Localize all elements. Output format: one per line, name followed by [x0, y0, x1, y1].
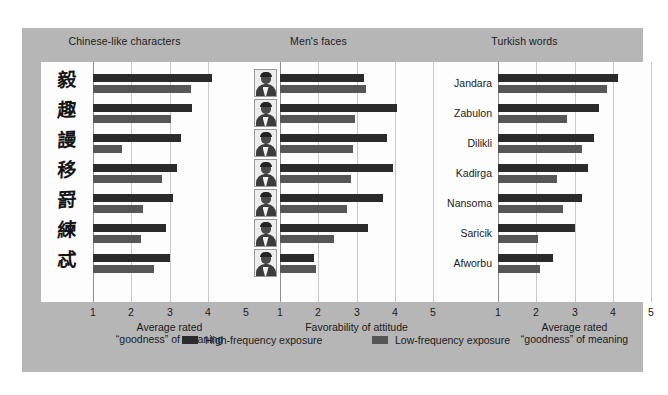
bar-low-frequency [280, 235, 334, 243]
category-glyph: 忒 [40, 250, 93, 272]
bar-low-frequency [498, 235, 538, 243]
category-glyph: 練 [40, 220, 93, 242]
category-face-photo [254, 99, 277, 127]
category-label: Nansoma [447, 197, 492, 209]
category-label: Zabulon [454, 107, 492, 119]
bar-high-frequency [93, 134, 181, 142]
x-tick-label: 5 [426, 306, 440, 318]
bar-high-frequency [498, 164, 588, 172]
x-tick-label: 1 [491, 306, 505, 318]
bar-low-frequency [498, 265, 540, 273]
panel-titles-row: Chinese-like charactersMen's facesTurkis… [22, 28, 643, 62]
bar-high-frequency [280, 164, 393, 172]
plot-3 [498, 62, 651, 302]
bar-low-frequency [93, 265, 154, 273]
bar-high-frequency [280, 134, 387, 142]
bar-low-frequency [498, 115, 567, 123]
category-labels-1: 毅趣謾移罸練忒 [41, 62, 93, 302]
gridline-3 [170, 62, 171, 302]
x-tick-label: 2 [311, 306, 325, 318]
bar-low-frequency [93, 115, 171, 123]
category-glyph: 趣 [40, 100, 93, 122]
x-tick-label: 5 [239, 306, 253, 318]
category-glyph: 移 [40, 160, 93, 182]
x-tick-label: 5 [644, 306, 658, 318]
panel-title-3: Turkish words [417, 35, 632, 47]
gridline-3 [575, 62, 576, 302]
bar-high-frequency [280, 254, 314, 262]
bar-low-frequency [280, 265, 316, 273]
x-tick-label: 3 [163, 306, 177, 318]
x-axis-3: 12345 [498, 306, 651, 320]
category-label: Kadirga [456, 167, 492, 179]
x-axis-title-2: Favorability of attitude [258, 321, 455, 333]
bar-high-frequency [498, 194, 582, 202]
bar-low-frequency [498, 175, 557, 183]
panel-title-2: Men's faces [223, 35, 414, 47]
category-face-photo [254, 69, 277, 97]
gridline-4 [208, 62, 209, 302]
bar-high-frequency [280, 74, 364, 82]
bar-high-frequency [498, 254, 553, 262]
gridline-3 [357, 62, 358, 302]
bar-high-frequency [93, 254, 170, 262]
category-labels-2 [242, 62, 280, 302]
bar-low-frequency [498, 145, 582, 153]
legend-swatch-low [372, 336, 388, 344]
bar-low-frequency [498, 85, 607, 93]
gridline-5 [433, 62, 434, 302]
plot-1 [93, 62, 246, 302]
bar-high-frequency [280, 194, 383, 202]
x-tick-label: 1 [86, 306, 100, 318]
x-axis-title-line1: Average rated [71, 321, 268, 333]
bar-low-frequency [93, 85, 191, 93]
category-label: Saricik [460, 227, 492, 239]
bar-high-frequency [280, 104, 397, 112]
category-label: Jandara [454, 77, 492, 89]
x-tick-label: 4 [201, 306, 215, 318]
category-face-photo [254, 219, 277, 247]
bar-low-frequency [280, 145, 353, 153]
legend-label: Low-frequency exposure [395, 334, 510, 346]
bar-low-frequency [93, 145, 122, 153]
gridline-5 [651, 62, 652, 302]
bar-high-frequency [498, 224, 575, 232]
bar-low-frequency [280, 175, 351, 183]
x-tick-label: 3 [350, 306, 364, 318]
x-tick-label: 3 [568, 306, 582, 318]
category-label: Dilikli [468, 137, 493, 149]
bar-high-frequency [498, 134, 594, 142]
x-axis-title-line1: Average rated [476, 321, 668, 333]
x-tick-label: 4 [606, 306, 620, 318]
bar-high-frequency [93, 224, 166, 232]
bar-high-frequency [498, 74, 618, 82]
plot-2 [280, 62, 433, 302]
category-label: Afworbu [453, 257, 492, 269]
bar-low-frequency [93, 235, 141, 243]
x-axis-1: 12345 [93, 306, 246, 320]
x-tick-label: 1 [273, 306, 287, 318]
figure-panel: Chinese-like charactersMen's facesTurkis… [22, 28, 643, 372]
x-axis-title-line1: Favorability of attitude [258, 321, 455, 333]
legend-label: High-frequency exposure [205, 334, 322, 346]
category-face-photo [254, 159, 277, 187]
category-glyph: 謾 [40, 130, 93, 152]
bar-low-frequency [93, 205, 143, 213]
category-glyph: 毅 [40, 70, 93, 92]
bar-high-frequency [93, 104, 192, 112]
chart-legend: High-frequency exposureLow-frequency exp… [22, 334, 643, 354]
x-tick-label: 4 [388, 306, 402, 318]
bar-low-frequency [93, 175, 162, 183]
bar-low-frequency [280, 85, 366, 93]
category-face-photo [254, 249, 277, 277]
gridline-4 [613, 62, 614, 302]
category-face-photo [254, 189, 277, 217]
plot-area: 毅趣謾移罸練忒JandaraZabulonDilikliKadirgaNanso… [41, 62, 624, 302]
legend-item-high-frequency: High-frequency exposure [182, 334, 322, 346]
bar-low-frequency [280, 205, 347, 213]
category-labels-3: JandaraZabulonDilikliKadirgaNansomaSaric… [436, 62, 498, 302]
x-axis-2: 12345 [280, 306, 433, 320]
category-face-photo [254, 129, 277, 157]
x-tick-label: 2 [124, 306, 138, 318]
bar-high-frequency [280, 224, 368, 232]
